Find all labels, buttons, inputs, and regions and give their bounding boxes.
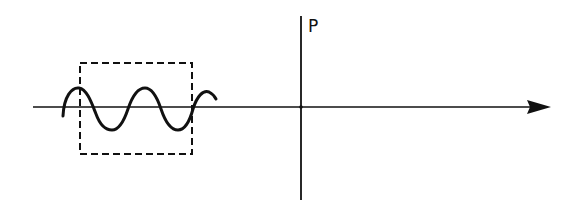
wave-packet xyxy=(63,88,216,130)
diagram-canvas: P xyxy=(0,0,578,204)
point-label-p: P xyxy=(308,16,318,36)
dashed-window-box xyxy=(80,63,192,154)
axis-arrow-icon xyxy=(527,100,551,114)
origin-point xyxy=(299,105,303,109)
